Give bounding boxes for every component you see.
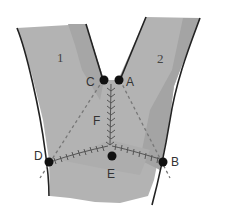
point-A — [115, 76, 124, 85]
point-E-label: E — [107, 167, 115, 181]
point-D — [45, 158, 54, 167]
point-F-label: F — [93, 114, 100, 128]
point-C-label: C — [86, 75, 95, 89]
point-C — [100, 76, 109, 85]
region-1-label: 1 — [57, 50, 64, 65]
point-B-label: B — [171, 155, 179, 169]
point-D-label: D — [34, 149, 43, 163]
point-A-label: A — [126, 75, 134, 89]
y-flap-diagram: 1 2 C A F D B E — [0, 0, 236, 219]
point-E — [108, 152, 117, 161]
region-2-label: 2 — [157, 51, 164, 66]
point-B — [159, 158, 168, 167]
